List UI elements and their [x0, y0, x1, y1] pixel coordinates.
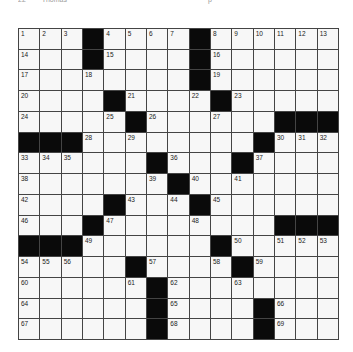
grid-cell[interactable]: 35	[62, 153, 82, 173]
grid-cell[interactable]	[254, 216, 274, 236]
grid-cell[interactable]	[211, 153, 231, 173]
grid-cell[interactable]	[62, 299, 82, 319]
grid-cell[interactable]	[40, 216, 60, 236]
grid-cell[interactable]: 9	[232, 29, 252, 49]
grid-cell[interactable]	[104, 257, 124, 277]
grid-cell[interactable]	[190, 133, 210, 153]
grid-cell[interactable]: 44	[168, 195, 188, 215]
grid-cell[interactable]	[211, 174, 231, 194]
grid-cell[interactable]	[275, 70, 295, 90]
grid-cell[interactable]: 64	[19, 299, 39, 319]
grid-cell[interactable]	[318, 299, 338, 319]
grid-cell[interactable]	[232, 299, 252, 319]
grid-cell[interactable]	[104, 236, 124, 256]
grid-cell[interactable]	[83, 195, 103, 215]
grid-cell[interactable]: 3	[62, 29, 82, 49]
grid-cell[interactable]: 12	[296, 29, 316, 49]
grid-cell[interactable]	[211, 299, 231, 319]
grid-cell[interactable]	[211, 133, 231, 153]
grid-cell[interactable]	[211, 319, 231, 339]
grid-cell[interactable]: 26	[147, 112, 167, 132]
grid-cell[interactable]: 65	[168, 299, 188, 319]
grid-cell[interactable]	[296, 91, 316, 111]
grid-cell[interactable]	[104, 133, 124, 153]
grid-cell[interactable]	[232, 319, 252, 339]
grid-cell[interactable]: 15	[104, 50, 124, 70]
grid-cell[interactable]: 47	[104, 216, 124, 236]
grid-cell[interactable]	[83, 319, 103, 339]
grid-cell[interactable]: 28	[83, 133, 103, 153]
grid-cell[interactable]	[168, 257, 188, 277]
grid-cell[interactable]: 23	[232, 91, 252, 111]
grid-cell[interactable]	[40, 91, 60, 111]
grid-cell[interactable]	[126, 319, 146, 339]
grid-cell[interactable]: 60	[19, 278, 39, 298]
grid-cell[interactable]	[190, 278, 210, 298]
grid-cell[interactable]	[40, 299, 60, 319]
grid-cell[interactable]: 55	[40, 257, 60, 277]
grid-cell[interactable]	[168, 216, 188, 236]
grid-cell[interactable]	[62, 70, 82, 90]
grid-cell[interactable]	[318, 195, 338, 215]
grid-cell[interactable]: 49	[83, 236, 103, 256]
grid-cell[interactable]	[126, 236, 146, 256]
grid-cell[interactable]	[104, 299, 124, 319]
grid-cell[interactable]: 52	[296, 236, 316, 256]
grid-cell[interactable]: 30	[275, 133, 295, 153]
grid-cell[interactable]	[296, 278, 316, 298]
grid-cell[interactable]	[211, 278, 231, 298]
grid-cell[interactable]	[83, 299, 103, 319]
grid-cell[interactable]: 48	[190, 216, 210, 236]
grid-cell[interactable]	[254, 278, 274, 298]
grid-cell[interactable]	[190, 257, 210, 277]
grid-cell[interactable]	[104, 153, 124, 173]
grid-cell[interactable]	[168, 236, 188, 256]
grid-cell[interactable]: 56	[62, 257, 82, 277]
grid-cell[interactable]: 42	[19, 195, 39, 215]
grid-cell[interactable]	[147, 91, 167, 111]
grid-cell[interactable]	[62, 216, 82, 236]
grid-cell[interactable]	[62, 278, 82, 298]
grid-cell[interactable]: 67	[19, 319, 39, 339]
grid-cell[interactable]	[232, 133, 252, 153]
grid-cell[interactable]	[83, 112, 103, 132]
grid-cell[interactable]	[254, 50, 274, 70]
grid-cell[interactable]: 39	[147, 174, 167, 194]
grid-cell[interactable]: 63	[232, 278, 252, 298]
grid-cell[interactable]	[83, 174, 103, 194]
grid-cell[interactable]: 11	[275, 29, 295, 49]
grid-cell[interactable]	[147, 50, 167, 70]
grid-cell[interactable]	[296, 195, 316, 215]
grid-cell[interactable]	[318, 50, 338, 70]
grid-cell[interactable]: 46	[19, 216, 39, 236]
grid-cell[interactable]: 6	[147, 29, 167, 49]
grid-cell[interactable]	[104, 174, 124, 194]
grid-cell[interactable]	[40, 70, 60, 90]
grid-cell[interactable]	[318, 257, 338, 277]
grid-cell[interactable]	[40, 278, 60, 298]
grid-cell[interactable]	[147, 216, 167, 236]
grid-cell[interactable]	[190, 112, 210, 132]
grid-cell[interactable]	[190, 153, 210, 173]
grid-cell[interactable]: 25	[104, 112, 124, 132]
grid-cell[interactable]	[254, 174, 274, 194]
grid-cell[interactable]: 68	[168, 319, 188, 339]
grid-cell[interactable]: 10	[254, 29, 274, 49]
grid-cell[interactable]	[168, 112, 188, 132]
grid-cell[interactable]: 13	[318, 29, 338, 49]
grid-cell[interactable]	[168, 70, 188, 90]
grid-cell[interactable]	[62, 319, 82, 339]
grid-cell[interactable]	[147, 195, 167, 215]
grid-cell[interactable]	[126, 299, 146, 319]
grid-cell[interactable]: 38	[19, 174, 39, 194]
grid-cell[interactable]	[318, 174, 338, 194]
grid-cell[interactable]: 5	[126, 29, 146, 49]
grid-cell[interactable]	[190, 299, 210, 319]
grid-cell[interactable]: 62	[168, 278, 188, 298]
grid-cell[interactable]	[168, 133, 188, 153]
grid-cell[interactable]: 1	[19, 29, 39, 49]
grid-cell[interactable]: 66	[275, 299, 295, 319]
grid-cell[interactable]: 29	[126, 133, 146, 153]
grid-cell[interactable]	[104, 70, 124, 90]
grid-cell[interactable]	[40, 112, 60, 132]
